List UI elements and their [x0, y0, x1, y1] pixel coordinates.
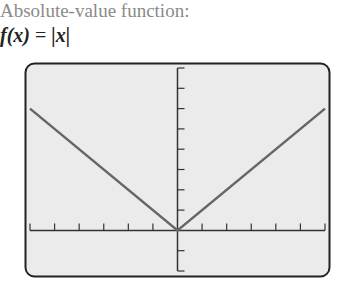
graph-screen — [0, 0, 342, 292]
